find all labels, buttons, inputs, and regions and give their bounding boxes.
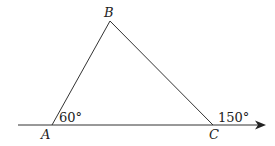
point-label-b: B [103,5,114,20]
triangle-diagram: B A C 60° 150° [0,0,275,146]
point-label-c: C [209,127,219,142]
side-bc [110,21,213,125]
angle-a-label: 60° [59,110,82,125]
angle-c-exterior-label: 150° [218,110,249,125]
point-label-a: A [40,127,50,142]
